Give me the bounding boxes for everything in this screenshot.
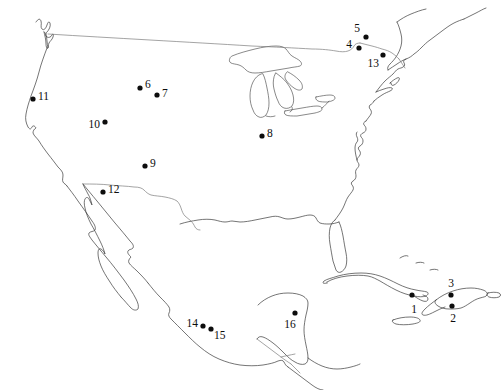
site-marker-dot[interactable]	[102, 119, 107, 124]
coastline-atlantic-southeast	[335, 121, 366, 220]
sample-sites-layer: 12345678910111213141516	[30, 22, 456, 341]
site-label: 12	[108, 183, 120, 195]
site-label: 6	[145, 78, 151, 90]
coastline-st-lawrence	[397, 9, 426, 22]
site-marker-dot[interactable]	[409, 292, 414, 297]
site-marker-dot[interactable]	[449, 303, 454, 308]
site-label: 2	[450, 312, 456, 324]
site-marker-dot[interactable]	[154, 92, 159, 97]
island-puerto-rico	[487, 292, 501, 298]
site-label: 7	[162, 87, 168, 99]
site-label: 16	[284, 318, 296, 330]
site-marker-dot[interactable]	[100, 189, 105, 194]
site-label: 15	[214, 329, 226, 341]
site-label: 8	[267, 127, 273, 139]
coastline-mexico-pacific	[148, 283, 288, 367]
coastline-maritimes	[464, 8, 486, 19]
site-label: 10	[89, 118, 101, 130]
island-cuba-eastern-tip	[414, 295, 428, 301]
lake-superior	[229, 46, 301, 73]
coastline-chesapeake-bay	[355, 132, 358, 160]
map-site-11[interactable]: 11	[30, 90, 49, 102]
map-site-3[interactable]: 3	[448, 277, 454, 298]
map-site-5[interactable]: 5	[354, 22, 368, 40]
map-site-13[interactable]: 13	[368, 52, 386, 68]
map-canvas: 12345678910111213141516	[0, 0, 504, 390]
lake-ontario	[316, 95, 335, 102]
lake-huron	[273, 73, 293, 108]
border-layer	[48, 34, 405, 373]
coastline-baja-east	[83, 184, 121, 297]
site-marker-dot[interactable]	[292, 310, 297, 315]
map-site-6[interactable]: 6	[137, 78, 151, 91]
site-marker-dot[interactable]	[30, 96, 35, 101]
map-site-15[interactable]: 15	[208, 326, 225, 340]
site-marker-dot[interactable]	[356, 45, 361, 50]
site-marker-dot[interactable]	[208, 326, 213, 331]
island-bahamas	[400, 256, 438, 270]
site-label: 14	[187, 317, 199, 329]
great-lakes-layer	[229, 46, 335, 117]
coastline-baja-west	[67, 186, 138, 310]
site-label: 4	[346, 38, 352, 50]
coastline-cape-cod	[390, 78, 399, 86]
map-site-4[interactable]: 4	[346, 38, 361, 51]
site-label: 1	[411, 303, 417, 315]
coastline-florida	[329, 220, 347, 272]
map-site-10[interactable]: 10	[89, 118, 108, 130]
border-mexico-guatemala	[257, 339, 300, 373]
site-label: 5	[354, 22, 360, 34]
coastline-central-america-caribbean	[308, 358, 360, 369]
site-marker-dot[interactable]	[259, 133, 264, 138]
map-site-14[interactable]: 14	[187, 317, 206, 329]
map-site-1[interactable]: 1	[409, 292, 417, 314]
coastline-maine-inland	[388, 22, 402, 70]
map-site-16[interactable]: 16	[284, 310, 297, 329]
site-label: 3	[448, 277, 454, 289]
coastline-new-england	[376, 19, 464, 92]
site-label: 9	[150, 157, 156, 169]
coastline-central-america-pacific	[288, 367, 323, 390]
lake-michigan	[250, 74, 269, 117]
georgian-bay	[285, 72, 302, 90]
coastline-bay-of-fundy	[388, 59, 406, 70]
island-jamaica	[392, 317, 420, 325]
map-site-7[interactable]: 7	[154, 87, 168, 99]
coastline-yucatan	[257, 293, 308, 364]
map-site-9[interactable]: 9	[142, 157, 156, 169]
coastline-delaware-bay	[366, 101, 374, 121]
map-site-8[interactable]: 8	[259, 127, 273, 139]
site-marker-dot[interactable]	[380, 52, 385, 57]
border-usa-canada-lakes	[360, 43, 399, 59]
coastline-georgia-strait	[44, 32, 48, 48]
coastline-layer	[26, 8, 486, 390]
border-usa-canada-west	[48, 34, 360, 52]
island-hispaniola	[435, 288, 487, 309]
coastline-gulf-of-mexico-north	[180, 215, 339, 224]
site-marker-dot[interactable]	[137, 85, 142, 90]
site-marker-dot[interactable]	[448, 292, 453, 297]
map-figure: 12345678910111213141516	[0, 0, 504, 390]
coastline-long-island	[374, 88, 392, 101]
coastline-gulf-california	[83, 184, 148, 283]
site-marker-dot[interactable]	[363, 34, 368, 39]
site-marker-dot[interactable]	[200, 323, 205, 328]
coastline-pacific	[26, 48, 67, 186]
site-label: 13	[368, 57, 380, 69]
site-label: 11	[38, 90, 49, 102]
site-marker-dot[interactable]	[142, 163, 147, 168]
map-site-2[interactable]: 2	[449, 303, 456, 323]
